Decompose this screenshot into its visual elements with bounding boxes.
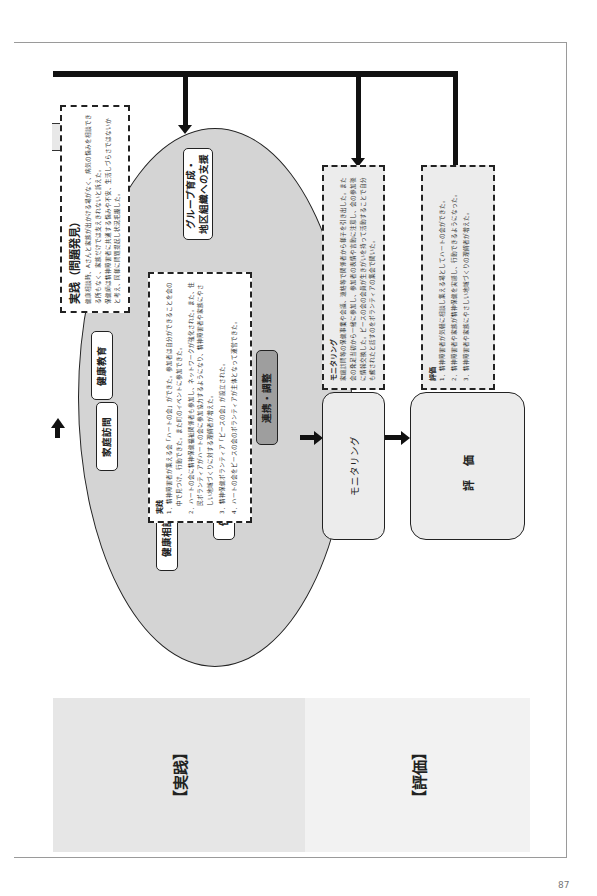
ellipse-to-monitoring-shaft [300,435,314,440]
monitoring-text-body: 家庭訪問等の保健事業や会議、連絡等で関係者から様子を引き出した。また会の発足当初… [339,174,378,381]
monitoring-text-box: モニタリング 家庭訪問等の保健事業や会議、連絡等で関係者から様子を引き出した。ま… [322,165,385,390]
problem-discovery-line-1: 健康相談時、Aさんと家族が出かける場がなく、病気の悩みを相談できる所もなく、家族… [84,114,104,304]
practice-band: 【実践】 [53,698,305,852]
evaluation-item-1: 1．精神障害者が気軽に相談し集える場としてハートの会ができた。 [438,174,448,381]
monitoring-text-title: モニタリング [328,174,338,381]
evaluation-band: 【評価】 [305,698,530,852]
practice-item-4: 4．ハートの会をピースの会のボランティアが主体となって運営できた。 [230,281,240,514]
practice-item-1: 1．精神障害者が集える会「ハートの会」ができた。参加者は自分ができることを会の中… [165,281,185,514]
incoming-arrow-icon [51,418,65,428]
evaluation-text-title: 評価 [427,174,437,381]
health-education-pill: 健康教育 [91,331,113,400]
monitoring-to-evaluation-arrow-icon [401,431,410,445]
problem-discovery-title: 実践（問題発見） [66,114,82,304]
connector-to-evaluation [453,74,458,165]
evaluation-list: 1．精神障害者が気軽に相談し集える場としてハートの会ができた。 2．精神障害者や… [438,174,471,381]
evaluation-item-3: 3．精神障害者や家族にやさしい地域づくりの理解者が増えた。 [462,174,472,381]
monitoring-node-label: モニタリング [347,436,361,496]
connector-to-monitoring [356,74,361,158]
top-connector-vertical [53,71,458,77]
evaluation-node: 評価 [410,392,525,540]
practice-band-label: 【実践】 [169,698,190,852]
rotated-diagram: 【実践】 【評価】 実践（問題発見） 健康相談時、Aさんと家族が出かける場がなく… [0,0,597,896]
evaluation-item-2: 2．精神障害者や家族が精神保健を実感し、行動できるようになった。 [450,174,460,381]
connector-to-ellipse [183,74,188,126]
practice-list-box: 実践 1．精神障害者が集える会「ハートの会」ができた。参加者は自分ができることを… [148,272,252,523]
home-visit-pill: 家庭訪問 [96,402,118,471]
practice-list-title: 実践 [154,281,164,514]
group-support-pill: グループ育成・ 地区組織への支援 [183,148,213,240]
incoming-arrow-shaft [55,428,60,438]
problem-discovery-line-2: 保健師は精神障害者に共通する悩みや不安、生活しづらさではないかと考え、同様に問題… [104,114,124,304]
side-tab-marker [52,123,60,151]
coordination-pill: 連携・調整 [256,350,278,445]
problem-discovery-box: 実践（問題発見） 健康相談時、Aさんと家族が出かける場がなく、病気の悩みを相談で… [60,105,130,313]
practice-item-2: 2．ハートの会に精神保健福祉関係者も参加し、ネットワークが強化された。また、住民… [187,281,216,514]
evaluation-band-label: 【評価】 [407,698,428,852]
practice-list: 1．精神障害者が集える会「ハートの会」ができた。参加者は自分ができることを会の中… [165,281,239,514]
evaluation-node-label: 評価 [460,441,476,491]
evaluation-text-box: 評価 1．精神障害者が気軽に相談し集える場としてハートの会ができた。 2．精神障… [421,165,495,390]
practice-item-3: 3．精神保健ボランティア「ピースの会」が設立された。 [218,281,228,514]
monitoring-node: モニタリング [322,392,385,540]
